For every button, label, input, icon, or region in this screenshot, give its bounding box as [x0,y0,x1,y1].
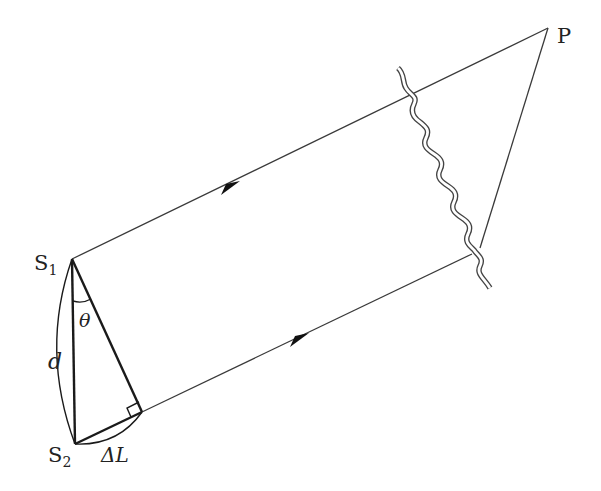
p-return-line [480,28,548,248]
label-s2: S2 [48,443,71,470]
label-theta: θ [79,309,91,331]
wavy-break-icon [398,68,490,288]
lower-ray [142,254,472,412]
diagram-canvas: S1 S2 P d θ ΔL [0,0,601,491]
label-p: P [557,24,571,48]
upper-ray-arrow-icon [221,181,240,195]
label-s1: S1 [34,251,57,278]
label-d: d [48,349,62,374]
angle-arc [73,299,91,302]
path-triangle [72,259,142,444]
label-delta-l: ΔL [100,443,129,467]
upper-ray [72,28,548,259]
